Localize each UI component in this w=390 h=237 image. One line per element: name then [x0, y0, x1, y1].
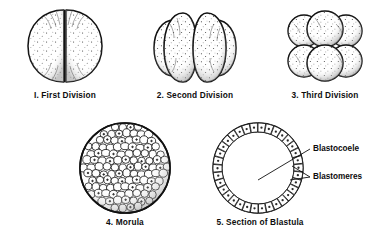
blastomere-nucleus	[217, 175, 219, 177]
blastomere-nucleus	[295, 181, 297, 183]
blastomere-nucleus	[291, 145, 293, 147]
blastomere-left-shading	[28, 10, 64, 82]
blastomere-nucleus	[227, 140, 229, 142]
blastomere-nucleus	[281, 134, 283, 136]
third-division-illustration	[260, 4, 390, 88]
blastomere-nucleus	[239, 203, 241, 205]
blastomere-nucleus	[281, 199, 283, 201]
second-division-drawing	[128, 4, 262, 88]
blastomere-lower-front-shading	[307, 45, 343, 81]
caption-morula: 4. Morula	[40, 218, 210, 226]
panel-second-division: 2. Second Division	[128, 4, 262, 99]
label-blastocoele: Blastocoele	[313, 145, 359, 153]
blastula-illustration	[196, 120, 390, 216]
blastomere-nucleus	[216, 167, 218, 169]
label-blastomeres: Blastomeres	[313, 173, 362, 181]
panel-morula: 4. Morula	[40, 120, 210, 226]
blastomere-nucleus	[260, 127, 262, 129]
blastomere-nucleus	[275, 130, 277, 132]
blastomere-nucleus	[297, 174, 299, 176]
blastomere-nucleus	[219, 152, 221, 154]
cleavage-stages-figure: I. First Division	[0, 0, 390, 237]
caption-second-division: 2. Second Division	[128, 91, 262, 99]
blastomere-nucleus	[295, 152, 297, 154]
caption-section-of-blastula: 5. Section of Blastula	[196, 218, 324, 226]
blastomere-nucleus	[217, 160, 219, 162]
second-division-illustration	[128, 4, 262, 88]
third-division-drawing	[260, 4, 390, 88]
blastomere-nucleus	[246, 206, 248, 208]
panel-first-division: I. First Division	[0, 4, 130, 99]
blastomere-nucleus	[297, 167, 299, 169]
blastomere-nucleus	[261, 207, 263, 209]
blastula-drawing	[196, 120, 390, 216]
caption-first-division: I. First Division	[0, 91, 130, 99]
blastomere-nucleus	[268, 206, 270, 208]
blastomere-nucleus	[287, 139, 289, 141]
blastomere-nucleus	[287, 194, 289, 196]
blastomere-upper-front-shading	[307, 11, 343, 47]
blastomere-nucleus	[233, 199, 235, 201]
blastomere-nucleus	[297, 159, 299, 161]
blastomere-nucleus	[222, 146, 224, 148]
morula-drawing	[40, 120, 210, 216]
blastomere-nucleus	[291, 188, 293, 190]
blastomere-nucleus	[232, 135, 234, 137]
caption-third-division: 3. Third Division	[260, 91, 390, 99]
first-division-illustration	[0, 4, 130, 88]
blastomere-nucleus	[239, 131, 241, 133]
blastomere-nucleus	[253, 207, 255, 209]
blastomere-nucleus	[227, 194, 229, 196]
blastomere-nucleus	[268, 128, 270, 130]
blastomere-nucleus	[223, 188, 225, 190]
morula-illustration	[40, 120, 210, 216]
panel-third-division: 3. Third Division	[260, 4, 390, 99]
blastomere-nucleus	[219, 182, 221, 184]
first-division-drawing	[0, 4, 130, 88]
blastomere-nucleus	[253, 127, 255, 129]
blastomere-nucleus	[275, 203, 277, 205]
blastomere-nucleus	[246, 128, 248, 130]
